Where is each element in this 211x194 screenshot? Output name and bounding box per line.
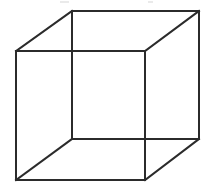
cube-drawing (0, 0, 211, 194)
necker-cube-figure (0, 0, 211, 194)
canvas-background (0, 0, 211, 194)
